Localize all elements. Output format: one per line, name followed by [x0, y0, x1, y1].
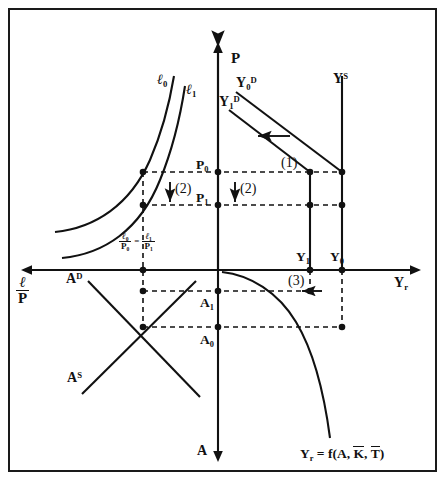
ad-curve-label: AD: [66, 272, 82, 286]
yd0-curve-label-main: Y: [236, 75, 246, 90]
production-function-curve: [222, 272, 330, 438]
as-curve-label-main: A: [67, 370, 77, 385]
real-wage-right-den-sub: 1: [150, 246, 153, 252]
real-wage-equality-label: ℓ0 P0 = ℓ1 P1: [119, 232, 155, 251]
yd1-curve-label-main: Y: [219, 94, 229, 109]
a1-point-label-sub: 1: [210, 303, 214, 312]
real-wage-denominator: P: [16, 291, 29, 306]
yd1-curve-label: Y1D: [219, 95, 240, 109]
real-wage-left-num-sub: 0: [126, 236, 129, 242]
l0-curve-label-sub: 0: [163, 79, 167, 89]
p1-point-label-sub: 1: [204, 198, 208, 207]
yd1-curve-label-sup: D: [233, 94, 239, 104]
yr-axis-label: Yr: [394, 276, 408, 290]
dot-p1-axis: [215, 202, 222, 209]
a0-point-label-sub: 0: [210, 340, 214, 349]
as-curve-label: AS: [67, 371, 82, 385]
a-axis-label: A: [197, 444, 207, 458]
p-axis-arrowhead: [213, 42, 223, 53]
real-wage-left-den-sub: 0: [127, 246, 130, 252]
ys-curve-label-sup: S: [343, 71, 348, 81]
l0-curve: [55, 76, 174, 232]
yd1-curve: [229, 110, 310, 172]
pf-comma: ,: [364, 446, 371, 461]
y0-point-label-main: Y: [330, 249, 340, 264]
y1-point-label-main: Y: [296, 249, 306, 264]
dot-a1-left: [140, 288, 147, 295]
l1-curve-label-sub: 1: [192, 89, 196, 99]
yd0-curve-label: Y0D: [236, 76, 257, 90]
step-2-right-annotation: (2): [240, 182, 256, 196]
dot-l0-p0: [140, 169, 147, 176]
real-wage-numerator: ℓ: [16, 275, 29, 291]
labour-demand-curves: [55, 76, 185, 258]
dot-a1-axis: [215, 288, 222, 295]
a0-point-label-main: A: [200, 332, 210, 347]
dot-asset-cross: [140, 324, 147, 331]
dot-y0-p1: [339, 202, 346, 209]
dot-prod-y0: [339, 324, 346, 331]
pf-lhs-sub: r: [310, 454, 314, 463]
y1-point-label-sub: 1: [306, 257, 310, 266]
y0-point-label-sub: 0: [340, 257, 344, 266]
diagram-vector-layer: [0, 0, 446, 492]
pf-t-bar: T: [371, 447, 380, 461]
yr-axis-arrowhead: [410, 265, 421, 275]
p1-point-label-main: P: [196, 190, 204, 205]
ad-curve-label-main: A: [66, 271, 76, 286]
yr-production-curve: [222, 272, 330, 438]
p0-point-label-main: P: [196, 157, 204, 172]
step-1-annotation: (1): [281, 156, 297, 170]
ad-curve: [88, 281, 200, 397]
economics-four-quadrant-figure: P Yr ℓ P A ℓ0 ℓ1 Y0D Y1D YS AD AS Yr = f…: [0, 0, 446, 492]
p-axis-label: P: [231, 51, 240, 66]
p0-point-label-sub: 0: [204, 165, 208, 174]
y1-point-label: Y1: [296, 250, 310, 264]
real-wage-left-fraction: ℓ0 P0: [119, 232, 131, 251]
real-wage-right-num-sub: 1: [149, 236, 152, 242]
yd0-curve-label-sup: D: [250, 75, 256, 85]
real-wage-right-fraction: ℓ1 P1: [142, 232, 154, 251]
movement-arrows: [170, 136, 322, 291]
a1-point-label: A1: [200, 296, 214, 310]
yr-axis-label-sub: r: [404, 282, 408, 292]
pf-eq: = f(A,: [313, 446, 353, 461]
step-3-annotation: (3): [288, 274, 304, 288]
l0-curve-label: ℓ0: [157, 73, 167, 87]
dot-realwage-axis: [140, 267, 147, 274]
l1-curve-label: ℓ1: [186, 83, 196, 97]
dot-p0-axis: [215, 169, 222, 176]
real-wage-left-den: P: [121, 241, 127, 251]
production-function-label: Yr = f(A, K, T): [300, 447, 384, 461]
dot-equilibrium-0: [339, 169, 346, 176]
pf-k-bar: K: [353, 447, 364, 461]
ad-curve-label-sup: D: [76, 271, 82, 281]
a-axis-arrowhead: [213, 451, 223, 462]
dot-l1-p1: [140, 202, 147, 209]
ys-curve-label-main: Y: [333, 71, 343, 86]
dot-y0-axis: [339, 267, 346, 274]
pf-lhs: Y: [300, 446, 310, 461]
real-wage-fraction: ℓ P: [16, 275, 29, 307]
real-wage-right-den-wrap: P1: [142, 242, 154, 251]
aggregate-demand-supply-lines: [229, 76, 342, 270]
dot-a0-axis: [215, 324, 222, 331]
pf-close: ): [380, 446, 385, 461]
dot-y1-p1: [307, 202, 314, 209]
real-wage-equals: =: [131, 237, 142, 246]
dot-y1-axis: [307, 267, 314, 274]
p0-point-label: P0: [196, 158, 208, 172]
p1-point-label: P1: [196, 191, 208, 205]
real-wage-axis-label: ℓ P: [16, 275, 29, 307]
dot-prod-y1: [307, 288, 314, 295]
as-curve-label-sup: S: [77, 370, 82, 380]
as-curve: [82, 281, 196, 394]
asset-market-cross: [82, 281, 200, 397]
yr-axis-label-main: Y: [394, 275, 404, 290]
dot-equilibrium-1: [307, 169, 314, 176]
a1-point-label-main: A: [200, 295, 210, 310]
a0-point-label: A0: [200, 333, 214, 347]
y0-point-label: Y0: [330, 250, 344, 264]
real-wage-left-den-wrap: P0: [119, 242, 131, 251]
step-2-left-annotation: (2): [175, 182, 191, 196]
